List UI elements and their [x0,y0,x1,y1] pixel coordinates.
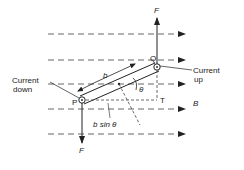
current-down-label-2: down [13,85,32,94]
projection-label-text: b sin θ [93,120,117,129]
length-arrow [96,64,135,82]
force-label-top: F [154,6,160,15]
current-up-leader [160,66,192,70]
angle-label: θ [139,85,144,94]
length-label: b [103,71,108,80]
force-label-bottom: F [79,146,85,155]
field-label: B [193,99,199,108]
current-up-label-1: Current [193,66,220,75]
current-up-label-2: up [194,75,203,84]
current-down-leader [50,82,79,98]
normal-line [119,84,140,125]
projection-label: b sin θ [93,120,117,129]
point-q-label: Q [150,54,156,63]
projection-leader [108,103,110,118]
point-t-label: T [160,96,165,105]
point-p-label: P [72,98,77,107]
current-down-label-1: Current [12,76,39,85]
coil-in-field-diagram: F F Q P T b θ B b sin θ Current down Cur… [0,0,244,170]
